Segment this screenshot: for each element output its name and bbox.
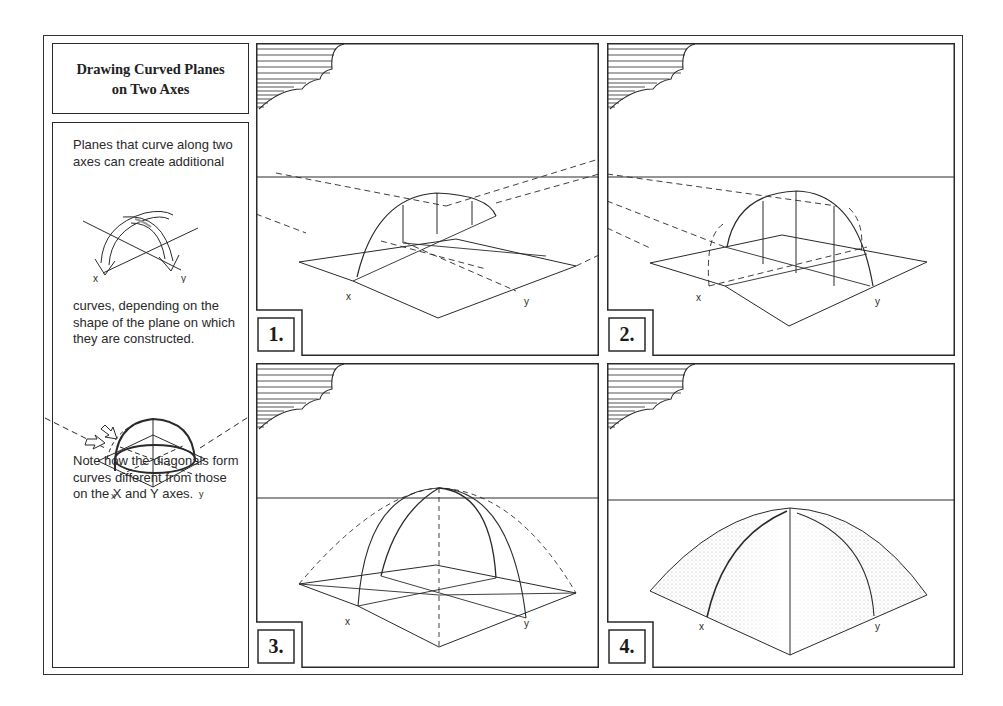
panel-1: x y 1. [256,43,599,356]
axis-y-label: y [875,621,880,632]
panel-number: 3. [258,635,294,658]
axis-y-label: y [524,618,529,629]
axis-y-label: y [875,296,880,307]
middle-paragraph: curves, depending on the shape of the pl… [73,298,243,348]
panel-3: x y 3. [256,363,599,668]
panel-number: 2. [609,323,645,346]
intro-paragraph: Planes that curve along two axes can cre… [73,137,243,170]
title-line-1: Drawing Curved Planes [61,59,241,79]
fig1-x-label: x [93,273,98,283]
axis-y-label: y [524,296,529,307]
curved-arrows-figure: x y [73,203,213,283]
title-box: Drawing Curved Planes on Two Axes [52,43,249,114]
sidebar-text-box: Planes that curve along two axes can cre… [52,122,249,668]
title-line-2: on Two Axes [61,79,241,99]
note-paragraph: Note how the diagonals form curves diffe… [73,453,243,503]
page-title: Drawing Curved Planes on Two Axes [61,59,241,99]
panel-2: x y 2. [607,43,955,356]
axis-x-label: x [345,616,350,627]
cloud-decoration [257,44,344,109]
panel-4: x y 4. [607,363,955,668]
axis-x-label: x [346,291,351,302]
axis-x-label: x [699,621,704,632]
axis-x-label: x [696,292,701,303]
panel-number: 4. [609,635,645,658]
panel-number: 1. [258,323,294,346]
fig1-y-label: y [181,273,186,283]
